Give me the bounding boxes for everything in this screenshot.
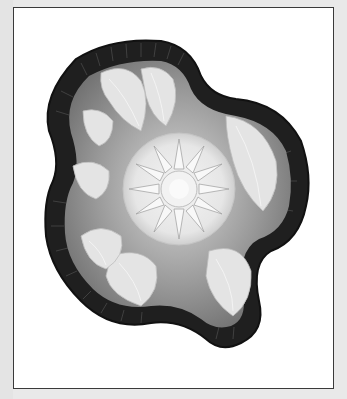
starburst-medallion: [123, 133, 235, 245]
photo-frame: Grayscale photograph of a ruffled-edge c…: [13, 7, 334, 389]
page-margin: [0, 0, 13, 399]
glass-bowl-photo: [14, 8, 334, 389]
